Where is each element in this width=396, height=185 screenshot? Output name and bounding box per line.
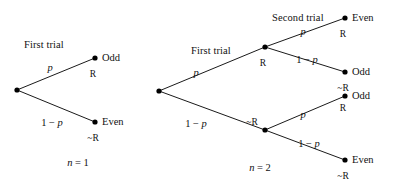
tree-n2-node-root — [156, 88, 161, 93]
tree-n1-prob-1-minus-p: 1 − p — [41, 118, 63, 129]
tree-n2-outcome-even-top: Even — [352, 13, 374, 24]
tree-n2-heading-first-trial: First trial — [191, 46, 231, 57]
tree-n2-prob-root-r: p — [193, 68, 198, 79]
tree-n2-outcome-odd-upper: Odd — [352, 67, 370, 78]
tree-n2-heading-second-trial: Second trial — [272, 13, 324, 24]
tree-n2-prob-r-odd: 1 − p — [296, 55, 318, 66]
tree-n2-event-not-r-node: ~R — [246, 118, 257, 128]
tree-n1-node-leaf-odd — [92, 55, 97, 60]
tree-n2-node-leaf-even-top — [342, 15, 347, 20]
tree-n2-event-r-top: R — [340, 30, 346, 40]
tree-n2-outcome-even-bottom: Even — [352, 155, 374, 166]
tree-n1-node-root — [14, 87, 19, 92]
tree-n1-event-r: R — [90, 70, 96, 80]
tree-n1-heading-first-trial: First trial — [24, 40, 64, 51]
tree-n2-caption: n = 2 — [249, 163, 271, 174]
tree-n1-edge-root-to-odd — [17, 58, 95, 90]
tree-n2-outcome-odd-lower: Odd — [352, 91, 370, 102]
tree-n2-event-r-node: R — [260, 59, 266, 69]
tree-n1-outcome-odd: Odd — [102, 53, 120, 64]
tree-n2-prob-r-even: p — [300, 27, 305, 38]
tree-n1-event-not-r: ~R — [87, 134, 98, 144]
tree-n2-node-leaf-even-bottom — [342, 157, 347, 162]
tree-n1-prob-p: p — [47, 63, 52, 74]
tree-n1-caption: n = 1 — [67, 158, 89, 169]
tree-n1-node-leaf-even — [92, 119, 97, 124]
tree-n2-node-leaf-odd-lower — [342, 93, 347, 98]
tree-n2-event-not-r-bottom: ~R — [337, 172, 348, 182]
tree-n2-node-node-r — [262, 44, 267, 49]
probability-tree-figure: First trialp1 − pOddEvenR~Rn = 1First tr… — [0, 0, 396, 185]
tree-n2-event-not-r-upper: ~R — [337, 84, 348, 94]
tree-n2-node-leaf-odd-upper — [342, 69, 347, 74]
tree-n2-prob-not-r-even: 1 − p — [298, 139, 320, 150]
tree-n2-prob-root-not-r: 1 − p — [185, 119, 207, 130]
tree-n1-outcome-even: Even — [102, 117, 124, 128]
tree-n2-node-node-not-r — [262, 127, 267, 132]
tree-n2-event-r-lower: R — [340, 104, 346, 114]
tree-n2-prob-not-r-odd: p — [300, 110, 305, 121]
